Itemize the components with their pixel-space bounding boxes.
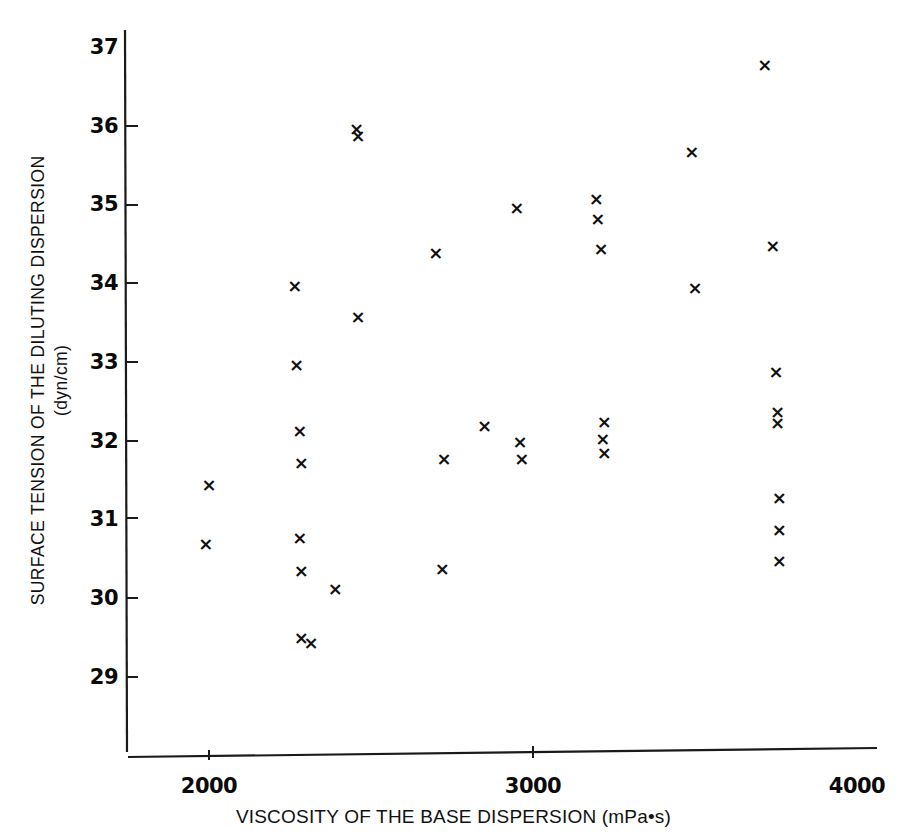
x-tick-label: 3000: [505, 774, 561, 798]
x-tick-labels: 200030004000: [0, 774, 907, 804]
data-point-marker: ×: [202, 476, 217, 491]
data-point-marker: ×: [294, 563, 309, 578]
data-point-marker: ×: [435, 560, 450, 575]
data-point-marker: ×: [688, 280, 703, 295]
data-point-marker: ×: [769, 364, 784, 379]
data-point-marker: ×: [597, 445, 612, 460]
chart-page: SURFACE TENSION OF THE DILUTING DISPERSI…: [0, 0, 907, 839]
data-point-marker: ×: [594, 240, 609, 255]
data-point-marker: ×: [772, 490, 787, 505]
data-point-marker: ×: [514, 450, 529, 465]
data-point-marker: ×: [289, 357, 304, 372]
data-point-marker: ×: [590, 210, 605, 225]
data-point-marker: ×: [509, 199, 524, 214]
data-point-marker: ×: [772, 553, 787, 568]
data-point-marker: ×: [684, 143, 699, 158]
data-point-marker: ×: [597, 413, 612, 428]
data-point-marker: ×: [770, 415, 785, 430]
data-point-marker: ×: [292, 529, 307, 544]
data-point-marker: ×: [428, 244, 443, 259]
data-point-marker: ×: [351, 128, 366, 143]
data-point-marker: ×: [757, 57, 772, 72]
data-point-marker: ×: [292, 423, 307, 438]
data-point-marker: ×: [513, 433, 528, 448]
data-point-marker: ×: [765, 238, 780, 253]
data-point-marker: ×: [328, 580, 343, 595]
data-point-marker: ×: [436, 450, 451, 465]
x-tick-label: 4000: [829, 774, 885, 798]
x-axis-title: VISCOSITY OF THE BASE DISPERSION (mPa•s): [0, 806, 907, 828]
data-point-marker: ×: [287, 277, 302, 292]
data-point-marker: ×: [304, 634, 319, 649]
x-tick-label: 2000: [181, 774, 237, 798]
data-points: ×××××××××××××××××××××××××××××××××××××: [0, 0, 907, 760]
data-point-marker: ×: [294, 454, 309, 469]
data-point-marker: ×: [477, 417, 492, 432]
data-point-marker: ×: [772, 521, 787, 536]
data-point-marker: ×: [351, 309, 366, 324]
plot-area: 293031323334353637 ×××××××××××××××××××××…: [0, 0, 907, 760]
data-point-marker: ×: [589, 191, 604, 206]
data-point-marker: ×: [198, 535, 213, 550]
